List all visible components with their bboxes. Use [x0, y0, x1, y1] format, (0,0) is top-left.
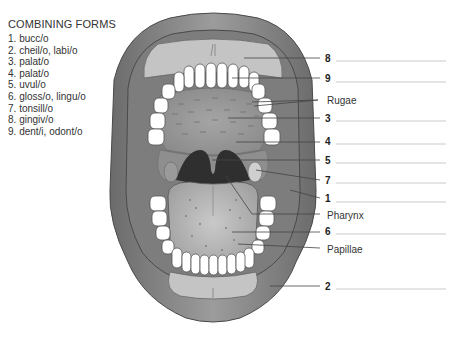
tonsil-right: [248, 162, 262, 182]
label-8: 8: [325, 54, 331, 64]
label-5: 5: [325, 156, 331, 166]
label-papillae: Papillae: [327, 245, 363, 255]
oral-cavity-illustration: [0, 0, 455, 337]
label-3: 3: [325, 114, 331, 124]
label-2: 2: [325, 282, 331, 292]
label-rugae: Rugae: [327, 96, 356, 106]
label-6: 6: [325, 227, 331, 237]
label-7: 7: [325, 176, 331, 186]
tonsil-left: [164, 162, 178, 182]
label-9: 9: [325, 74, 331, 84]
label-pharynx: Pharynx: [327, 211, 364, 221]
label-4: 4: [325, 137, 331, 147]
label-1: 1: [325, 194, 331, 204]
